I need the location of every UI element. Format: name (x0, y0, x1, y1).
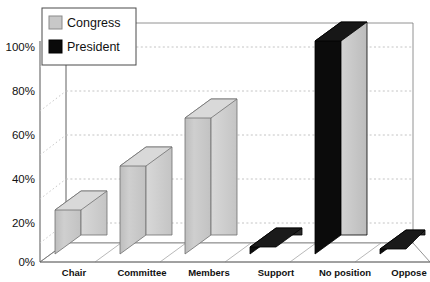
y-tick-label-0: 0% (18, 256, 35, 268)
bar-no-position-side (341, 22, 367, 235)
y-tick-label-20: 20% (12, 217, 35, 229)
legend-label-president: President (67, 40, 120, 54)
chart-canvas: 100% 80% 60% 40% 20% 0% (0, 0, 430, 282)
category-label-chair: Chair (62, 267, 87, 278)
legend-swatch-president (49, 40, 62, 53)
bar-members-front (185, 99, 211, 254)
category-label-support: Support (258, 267, 295, 278)
category-label-members: Members (188, 267, 230, 278)
y-tick-label-40: 40% (12, 173, 35, 185)
bar-no-position[interactable] (315, 22, 367, 254)
legend-swatch-congress (49, 16, 62, 29)
category-label-no-position: No position (319, 267, 371, 278)
category-label-committee: Committee (117, 267, 166, 278)
bar-no-position-front (315, 22, 341, 254)
bar-members[interactable] (185, 99, 237, 254)
bar-chart: 100% 80% 60% 40% 20% 0% (0, 0, 430, 282)
legend-label-congress: Congress (67, 16, 121, 30)
y-tick-label-100: 100% (6, 41, 35, 53)
legend: Congress President (42, 8, 136, 65)
y-tick-label-80: 80% (12, 85, 35, 97)
bar-members-side (211, 99, 237, 235)
category-label-oppose: Oppose (391, 267, 426, 278)
y-tick-label-60: 60% (12, 129, 35, 141)
